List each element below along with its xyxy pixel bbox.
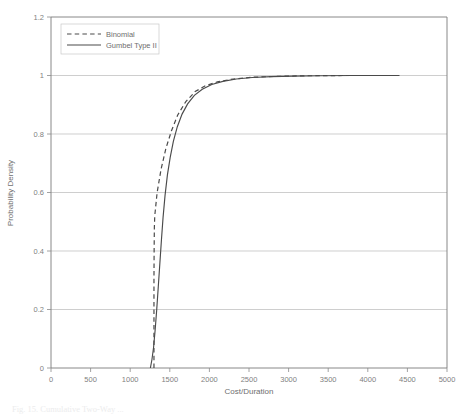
y-tick-label-0.8: 0.8 (34, 130, 44, 139)
x-tick-label-4500: 4500 (399, 375, 416, 384)
x-tick-label-0: 0 (49, 375, 53, 384)
x-tick-label-3000: 3000 (280, 375, 297, 384)
legend-background (61, 24, 159, 54)
series-line-binomial (154, 76, 400, 369)
x-axis-ticks-group: 0500100015002000250030003500400045005000 (49, 368, 455, 384)
legend-label-binomial: Binomial (106, 30, 135, 39)
y-axis-title: Probability Density (6, 160, 15, 226)
x-tick-label-2000: 2000 (201, 375, 218, 384)
y-tick-label-0.2: 0.2 (34, 305, 44, 314)
x-tick-label-1000: 1000 (122, 375, 139, 384)
y-tick-label-1: 1 (40, 71, 44, 80)
y-tick-label-0.6: 0.6 (34, 188, 44, 197)
legend-label-gumbel-type-ii: Gumbel Type II (106, 41, 157, 50)
probability-density-chart: 0500100015002000250030003500400045005000… (0, 0, 470, 400)
y-tick-label-1.2: 1.2 (34, 13, 44, 22)
y-axis-ticks-group: 00.20.40.60.811.2 (34, 13, 51, 373)
x-tick-label-3500: 3500 (320, 375, 337, 384)
y-tick-label-0.4: 0.4 (34, 247, 44, 256)
gridlines-group (51, 76, 447, 310)
x-tick-label-1500: 1500 (161, 375, 178, 384)
x-tick-label-500: 500 (84, 375, 97, 384)
x-tick-label-2500: 2500 (241, 375, 258, 384)
x-tick-label-5000: 5000 (439, 375, 456, 384)
series-line-gumbel-type-ii (150, 76, 399, 369)
x-axis-title: Cost/Duration (225, 387, 274, 396)
chart-legend: Binomial Gumbel Type II (61, 24, 159, 54)
figure-container: 0500100015002000250030003500400045005000… (0, 0, 470, 417)
data-series-group (150, 76, 399, 369)
y-tick-label-0: 0 (40, 364, 44, 373)
x-tick-label-4000: 4000 (359, 375, 376, 384)
figure-caption: Fig. 15. Cumulative Two-Way ... (12, 404, 452, 414)
